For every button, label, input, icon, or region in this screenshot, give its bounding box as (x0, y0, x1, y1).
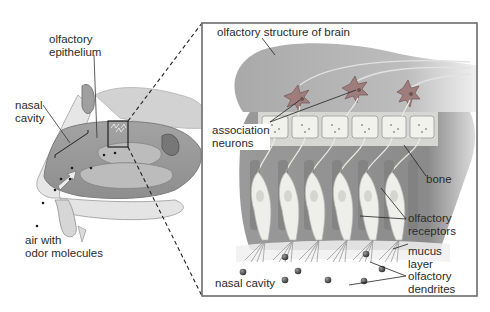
label-line: odor molecules (25, 247, 103, 260)
label-line: olfactory (408, 270, 455, 283)
label-olfactory-structure-of-brain: olfactory structure of brain (217, 26, 350, 39)
label-line: receptors (408, 225, 456, 238)
label-association-neurons: association neurons (212, 124, 270, 150)
label-line: mucus (408, 245, 442, 258)
olfaction-diagram: olfactory epithelium nasal cavity air wi… (0, 0, 490, 312)
label-mucus-layer: mucus layer (408, 245, 442, 271)
label-air-with-odor-molecules: air with odor molecules (25, 234, 103, 260)
label-line: neurons (212, 137, 270, 150)
label-line: nasal (15, 99, 44, 112)
nose-cross-section (36, 84, 208, 242)
label-line: olfactory (49, 33, 101, 46)
label-nasal-cavity-detail: nasal cavity (215, 277, 275, 290)
label-olfactory-dendrites: olfactory dendrites (408, 270, 455, 296)
label-line: epithelium (49, 46, 101, 59)
label-bone: bone (426, 173, 452, 186)
label-olfactory-epithelium: olfactory epithelium (49, 33, 101, 59)
label-line: association (212, 124, 270, 137)
label-line: dendrites (408, 283, 455, 296)
label-nasal-cavity-overview: nasal cavity (15, 99, 44, 125)
label-line: olfactory (408, 212, 456, 225)
label-line: air with (25, 234, 103, 247)
label-line: cavity (15, 112, 44, 125)
label-olfactory-receptors: olfactory receptors (408, 212, 456, 238)
